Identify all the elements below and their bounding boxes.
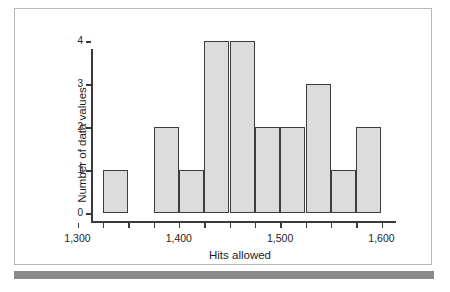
x-tick bbox=[179, 223, 181, 228]
y-tick bbox=[86, 170, 91, 172]
x-tick bbox=[255, 223, 257, 228]
x-tick bbox=[306, 223, 308, 228]
histogram-bar bbox=[280, 127, 305, 213]
figure-frame: Number of data values 01234 1,3001,4001,… bbox=[14, 8, 432, 265]
x-tick bbox=[280, 223, 282, 228]
y-axis-label-wrapper: Number of data values bbox=[63, 49, 77, 221]
y-tick-label: 3 bbox=[59, 78, 83, 89]
x-tick bbox=[204, 223, 206, 228]
x-tick bbox=[103, 223, 105, 228]
y-tick bbox=[86, 84, 91, 86]
y-tick bbox=[86, 213, 91, 215]
x-axis-line bbox=[91, 221, 396, 223]
y-tick bbox=[86, 41, 91, 43]
x-tick-label: 1,400 bbox=[156, 232, 202, 244]
y-tick bbox=[86, 127, 91, 129]
histogram-bar bbox=[356, 127, 381, 213]
histogram-bar bbox=[306, 84, 331, 213]
histogram-bar bbox=[154, 127, 179, 213]
figure-page: Number of data values 01234 1,3001,4001,… bbox=[0, 0, 450, 292]
y-tick-label: 2 bbox=[59, 121, 83, 132]
bottom-gray-rule bbox=[14, 271, 434, 279]
histogram-bar bbox=[230, 41, 255, 213]
y-tick-label: 4 bbox=[59, 35, 83, 46]
x-tick-label: 1,600 bbox=[359, 232, 405, 244]
histogram-bar bbox=[103, 170, 128, 213]
x-tick bbox=[154, 223, 156, 228]
histogram-bar bbox=[331, 170, 356, 213]
x-tick bbox=[356, 223, 358, 228]
histogram-bar bbox=[204, 41, 229, 213]
x-tick-label: 1,500 bbox=[257, 232, 303, 244]
x-tick bbox=[128, 223, 130, 228]
x-tick bbox=[331, 223, 333, 228]
y-tick-label: 1 bbox=[59, 164, 83, 175]
histogram-bar bbox=[255, 127, 280, 213]
y-axis-line bbox=[91, 49, 93, 222]
x-axis-label: Hits allowed bbox=[15, 249, 450, 261]
x-tick-label: 1,300 bbox=[55, 232, 101, 244]
x-tick bbox=[230, 223, 232, 228]
y-tick-label: 0 bbox=[59, 207, 83, 218]
x-tick bbox=[382, 223, 384, 228]
x-tick bbox=[78, 223, 80, 228]
histogram-bar bbox=[179, 170, 204, 213]
